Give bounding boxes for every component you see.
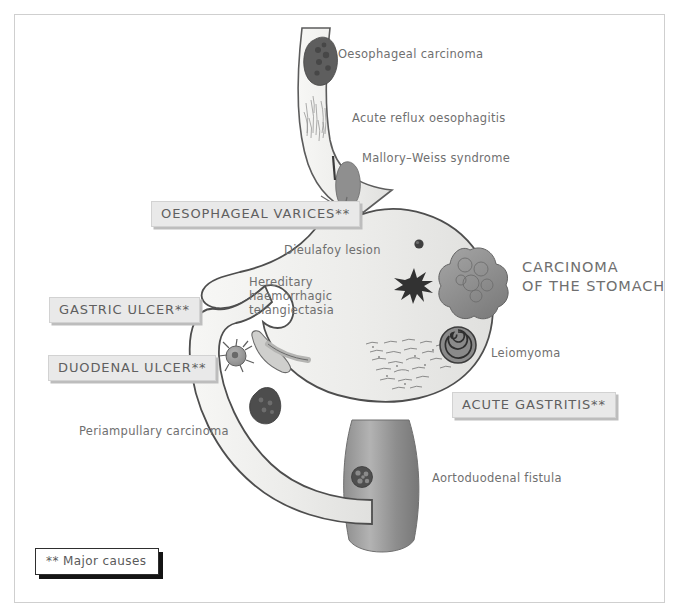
boxed-label-acute-gastritis[interactable]: ACUTE GASTRITIS** — [452, 392, 616, 418]
label-cos-line2: OF THE STOMACH — [522, 277, 667, 296]
label-periampullary-carcinoma: Periampullary carcinoma — [79, 424, 229, 438]
aorta-cylinder — [344, 420, 419, 552]
gastric-ulcer-lesion — [219, 339, 254, 372]
boxed-label-duodenal-ulcer[interactable]: DUODENAL ULCER** — [48, 355, 216, 381]
label-aortoduodenal-fistula: Aortoduodenal fistula — [432, 471, 562, 485]
oesophageal-carcinoma-lesion — [304, 37, 338, 85]
label-hht-line2: telangiectasia — [249, 303, 389, 317]
label-carcinoma-of-the-stomach: CARCINOMA OF THE STOMACH — [522, 258, 667, 296]
label-hht-line1: Hereditary haemorrhagic — [249, 275, 389, 303]
figure-canvas: Oesophageal carcinoma Acute reflux oesop… — [0, 0, 681, 613]
label-dieulafoy-lesion: Dieulafoy lesion — [284, 243, 381, 257]
label-hereditary-haemorrhagic-telangiectasia: Hereditary haemorrhagic telangiectasia — [249, 275, 389, 317]
boxed-label-gastric-ulcer[interactable]: GASTRIC ULCER** — [49, 297, 200, 323]
boxed-label-oesophageal-varices[interactable]: OESOPHAGEAL VARICES** — [151, 201, 360, 227]
label-cos-line1: CARCINOMA — [522, 258, 667, 277]
label-acute-reflux-oesophagitis: Acute reflux oesophagitis — [352, 111, 506, 125]
label-oesophageal-carcinoma: Oesophageal carcinoma — [338, 47, 483, 61]
label-mallory-weiss-syndrome: Mallory–Weiss syndrome — [362, 151, 510, 165]
aortoduodenal-fistula-lesion — [352, 467, 373, 488]
label-leiomyoma: Leiomyoma — [491, 346, 561, 360]
periampullary-carcinoma-lesion — [250, 388, 281, 424]
leiomyoma-lesion — [440, 327, 476, 363]
dieulafoy-lesion — [414, 239, 423, 248]
legend-major-causes: ** Major causes — [35, 548, 159, 575]
